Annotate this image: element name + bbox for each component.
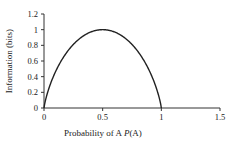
x-axis-title: Probability of A P(A) [64, 128, 142, 138]
y-tick-label: 1.2 [27, 9, 38, 19]
y-tick-label: 0 [34, 103, 38, 113]
y-tick-label: 1 [34, 25, 38, 35]
y-tick-label: 0.6 [27, 56, 38, 66]
x-tick-label: 0 [42, 112, 46, 122]
y-axis: 00.20.40.60.811.2 [27, 9, 44, 113]
y-axis-title: Information (bits) [4, 29, 14, 93]
y-tick-label: 0.2 [27, 87, 38, 97]
y-tick-label: 0.8 [27, 40, 38, 50]
x-axis-title-suffix: (A) [129, 128, 142, 138]
entropy-chart: 00.20.40.60.811.2 00.511.5 Information (… [0, 0, 239, 145]
y-tick-label: 0.4 [27, 72, 38, 82]
x-axis-title-prefix: Probability of A [64, 128, 124, 138]
entropy-curve [44, 30, 161, 108]
x-axis: 00.511.5 [42, 108, 225, 122]
x-tick-label: 1 [159, 112, 163, 122]
x-tick-label: 1.5 [215, 112, 226, 122]
x-tick-label: 0.5 [97, 112, 108, 122]
